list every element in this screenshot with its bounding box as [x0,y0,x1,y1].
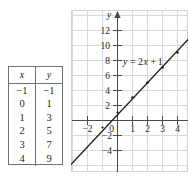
cell-x: 2 [9,125,36,139]
equation-label: y=2x+1 [122,56,163,67]
equation-coefficient: 2 [138,56,143,67]
plot-point [116,111,118,113]
cell-x: 4 [9,152,36,166]
x-tick-label-4: 4 [175,124,180,134]
cell-x: 1 [9,111,36,125]
table-row: 2 5 [9,125,62,139]
linear-function-figure: x y −1 −1 0 1 1 3 2 5 [0,0,188,181]
y-tick-label-6: 6 [105,71,110,81]
equation-constant: 1 [158,56,163,67]
graph-panel: y 12 10 8 6 4 2 −2 −4 0 −2 1 2 3 4 [71,10,188,172]
cell-y: 5 [36,125,63,139]
table-head: x y [9,67,62,84]
table-row: 3 7 [9,138,62,152]
equation-equals: = [130,56,136,67]
table-row: 0 1 [9,98,62,112]
y-tick-label-2: 2 [105,101,110,111]
y-axis-arrowhead [114,11,120,18]
horizontal-gridlines [72,16,188,166]
plot-point [101,126,103,128]
column-header-y: y [36,67,63,84]
table-body: −1 −1 0 1 1 3 2 5 3 7 [9,84,62,166]
y-axis-label: y [106,10,112,20]
equation-plus: + [151,56,157,67]
cell-y: 1 [36,98,63,112]
table-header-row: x y [9,67,62,84]
cell-x: 3 [9,138,36,152]
column-header-x: x [9,67,36,84]
y-tick-label-8: 8 [105,56,110,66]
cell-y: −1 [36,84,63,98]
x-tick-label-2: 2 [145,124,150,134]
x-tick-label-neg2: −2 [82,124,92,134]
table-row: −1 −1 [9,84,62,98]
coordinate-plane: y 12 10 8 6 4 2 −2 −4 0 −2 1 2 3 4 [71,10,188,172]
y-tick-label-neg4: −4 [102,146,112,156]
value-table: x y −1 −1 0 1 1 3 2 5 [8,66,63,165]
cell-y: 3 [36,111,63,125]
y-tick-label-4: 4 [105,86,110,96]
table-row: 4 9 [9,152,62,166]
plot-point [176,51,179,54]
xy-table: x y −1 −1 0 1 1 3 2 5 [9,67,62,166]
cell-x: 0 [9,98,36,112]
origin-label: 0 [109,124,114,134]
table-row: 1 3 [9,111,62,125]
plot-point [146,81,149,84]
cell-y: 9 [36,152,63,166]
y-tick-label-12: 12 [101,26,111,36]
cell-y: 7 [36,138,63,152]
x-tick-label-1: 1 [130,124,135,134]
equation-y: y [122,56,128,67]
plot-point [131,96,134,99]
cell-x: −1 [9,84,36,98]
x-tick-label-3: 3 [160,124,165,134]
equation-x: x [143,56,149,67]
y-tick-label-10: 10 [101,41,111,51]
